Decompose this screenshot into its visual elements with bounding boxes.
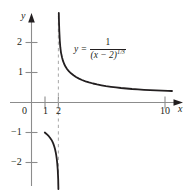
denominator-base: (x − 2) [91, 50, 117, 60]
equation-denominator: (x − 2)1/3 [90, 50, 126, 61]
y-tick-label-2: 2 [17, 37, 22, 47]
y-tick-label-minus-2: −2 [11, 157, 22, 167]
equation-lhs: y [74, 44, 78, 54]
x-tick-label-2: 2 [56, 106, 61, 116]
curve-left-branch [45, 133, 59, 190]
equation-equals: = [81, 44, 86, 54]
denominator-exponent: 1/3 [117, 47, 125, 54]
figure-container: y x 2 1 −1 −2 0 1 2 10 y = 1 (x − 2)1/3 [0, 0, 196, 194]
equation-numerator: 1 [102, 38, 113, 49]
x-tick-label-10: 10 [160, 106, 170, 116]
y-axis-label: y [21, 11, 25, 21]
x-axis-label: x [178, 104, 182, 114]
y-tick-label-1: 1 [18, 67, 23, 77]
y-axis-arrowhead [28, 13, 35, 23]
equation-label: y = 1 (x − 2)1/3 [74, 38, 126, 60]
equation-fraction: 1 (x − 2)1/3 [90, 38, 126, 60]
y-tick-label-minus-1: −1 [11, 127, 22, 137]
origin-label: 0 [22, 106, 27, 116]
x-tick-label-1: 1 [43, 106, 48, 116]
graph-canvas [0, 0, 196, 194]
